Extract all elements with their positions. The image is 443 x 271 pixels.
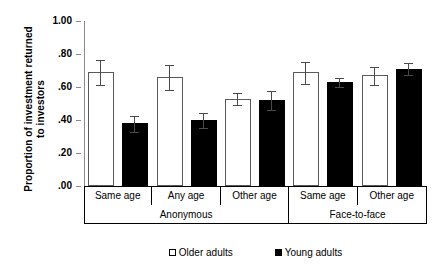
y-axis-tick-mark xyxy=(76,153,81,154)
legend-entry: Older adults xyxy=(169,246,233,259)
y-axis-tick-label: .00 xyxy=(30,179,72,192)
error-bar-cap-top xyxy=(335,78,344,79)
error-bar-cap-bottom xyxy=(301,84,310,85)
legend-swatch-open-square-icon xyxy=(169,249,176,256)
supergroup-axis-labels: AnonymousFace-to-face xyxy=(84,205,427,224)
bar-group xyxy=(289,21,357,186)
error-bar-cap-top xyxy=(130,116,139,117)
error-bar xyxy=(271,91,272,111)
error-bar-cap-bottom xyxy=(267,110,276,111)
category-axis-labels: Same ageAny ageOther ageSame ageOther ag… xyxy=(84,186,427,205)
error-bar-cap-bottom xyxy=(335,87,344,88)
error-bar-cap-top xyxy=(404,63,413,64)
error-bar xyxy=(305,62,306,85)
error-bar xyxy=(374,67,375,87)
error-bar xyxy=(237,93,238,106)
error-bar-cap-top xyxy=(301,62,310,63)
error-bar-cap-bottom xyxy=(370,85,379,86)
error-bar xyxy=(134,116,135,133)
error-bar-container xyxy=(88,21,114,186)
category-label: Same age xyxy=(289,186,357,205)
bar-group xyxy=(84,21,152,186)
error-bar-cap-bottom xyxy=(165,90,174,91)
category-label: Other age xyxy=(221,186,289,205)
category-label: Same age xyxy=(84,186,152,205)
bar-chart-figure: Proportion of investment returned to inv… xyxy=(0,0,443,271)
y-axis-tick-mark xyxy=(76,87,81,88)
legend-label: Young adults xyxy=(285,246,342,259)
y-axis-tick-mark xyxy=(76,54,81,55)
error-bar-cap-bottom xyxy=(96,85,105,86)
error-bar xyxy=(100,60,101,86)
bar-group xyxy=(152,21,220,186)
category-label: Other age xyxy=(358,186,426,205)
error-bar-cap-top xyxy=(199,113,208,114)
error-bar-cap-bottom xyxy=(404,75,413,76)
category-label: Any age xyxy=(152,186,220,205)
error-bar-cap-bottom xyxy=(233,105,242,106)
error-bar-container xyxy=(293,21,319,186)
error-bar-container xyxy=(396,21,422,186)
error-bar-container xyxy=(362,21,388,186)
error-bar-cap-top xyxy=(96,60,105,61)
error-bar xyxy=(408,63,409,76)
error-bar-container xyxy=(191,21,217,186)
supergroup-label: Anonymous xyxy=(84,205,289,224)
legend-label: Older adults xyxy=(179,246,233,259)
error-bar-container xyxy=(157,21,183,186)
y-axis-tick-mark xyxy=(76,186,81,187)
error-bar-cap-bottom xyxy=(199,128,208,129)
plot-area xyxy=(84,21,426,186)
error-bar-cap-top xyxy=(233,93,242,94)
error-bar-cap-bottom xyxy=(130,132,139,133)
y-axis-tick-label: .40 xyxy=(30,113,72,126)
error-bar-container xyxy=(327,21,353,186)
legend-swatch-filled-square-icon xyxy=(275,249,282,256)
error-bar xyxy=(339,78,340,88)
y-axis-tick-mark xyxy=(76,21,81,22)
error-bar xyxy=(203,113,204,130)
error-bar xyxy=(169,65,170,91)
bar-group xyxy=(358,21,426,186)
error-bar-cap-top xyxy=(165,65,174,66)
supergroup-label: Face-to-face xyxy=(289,205,426,224)
bar-group xyxy=(221,21,289,186)
error-bar-container xyxy=(225,21,251,186)
error-bar-container xyxy=(122,21,148,186)
error-bar-container xyxy=(259,21,285,186)
chart-legend: Older adultsYoung adults xyxy=(84,246,427,259)
y-axis-tick-mark xyxy=(76,120,81,121)
legend-entry: Young adults xyxy=(275,246,342,259)
y-axis-tick-label: 1.00 xyxy=(30,14,72,27)
y-axis-title: Proportion of investment returned to inv… xyxy=(18,11,52,207)
y-axis-tick-label: .60 xyxy=(30,80,72,93)
error-bar-cap-top xyxy=(370,67,379,68)
y-axis-tick-label: .20 xyxy=(30,146,72,159)
error-bar-cap-top xyxy=(267,91,276,92)
y-axis-tick-label: .80 xyxy=(30,47,72,60)
